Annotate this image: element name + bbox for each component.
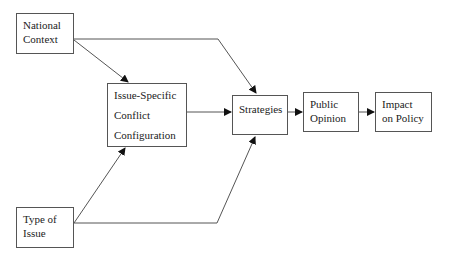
edge-national-to-issue <box>74 40 128 82</box>
node-strategies: Strategies <box>232 95 288 135</box>
edge-type-to-issue <box>74 148 125 223</box>
edge-type-to-strategies <box>74 137 255 223</box>
node-impact-on-policy: Impact on Policy <box>375 92 432 132</box>
node-label-line: Impact <box>382 97 425 111</box>
node-issue-specific-conflict-configuration: Issue-Specific Conflict Configuration <box>107 83 187 147</box>
node-label-line: on Policy <box>382 111 425 125</box>
node-national-context: National Context <box>16 13 74 54</box>
node-label-line: Issue-Specific <box>114 86 180 104</box>
node-label-line: Type of <box>23 212 67 226</box>
node-label-line: Configuration <box>114 126 180 144</box>
node-label-line: Issue <box>23 226 67 240</box>
node-label-line: Strategies <box>239 102 281 116</box>
node-public-opinion: Public Opinion <box>303 92 359 132</box>
node-label-line: National <box>23 18 67 32</box>
node-label-line: Public <box>310 97 352 111</box>
node-label-line: Context <box>23 32 67 46</box>
node-type-of-issue: Type of Issue <box>16 207 74 248</box>
node-label-line: Conflict <box>114 106 180 124</box>
node-label-line: Opinion <box>310 111 352 125</box>
